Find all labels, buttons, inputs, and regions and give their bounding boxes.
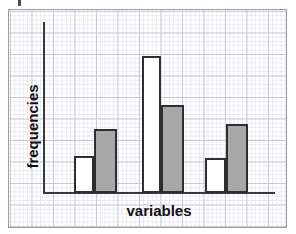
graph-paper-sheet (8, 9, 287, 228)
figure-canvas: frequencies variables (0, 0, 296, 234)
ink-mark-icon (18, 0, 21, 6)
